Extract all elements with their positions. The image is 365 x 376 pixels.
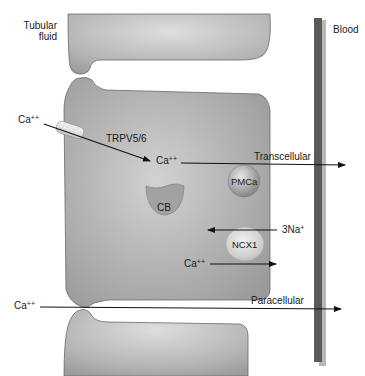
sodium-label: 3Na+ [282, 224, 304, 235]
ca-paracellular-label: Ca++ [14, 300, 35, 311]
ca-ncx-symbol: Ca [184, 258, 197, 269]
ca-lumen-label: Ca++ [18, 114, 39, 125]
paracellular-label: Paracellular [251, 295, 304, 306]
calcium-transport-diagram [0, 0, 365, 376]
trpv-label: TRPV5/6 [106, 133, 147, 144]
ca-lumen-symbol: Ca [18, 114, 31, 125]
upper-cell [68, 14, 270, 74]
ca-ncx-charge: ++ [197, 258, 205, 265]
sodium-symbol: 3Na [282, 224, 300, 235]
cb-label: CB [157, 202, 171, 213]
basolateral-membrane [314, 18, 326, 366]
ca-para-charge: ++ [27, 300, 35, 307]
ca-para-symbol: Ca [14, 300, 27, 311]
ca-cell-charge: ++ [169, 155, 177, 162]
ca-lumen-charge: ++ [31, 114, 39, 121]
pmca-label: PMCa [231, 176, 257, 187]
transcellular-label: Transcellular [254, 151, 311, 162]
ncx1-label: NCX1 [232, 239, 257, 250]
sodium-charge: + [300, 224, 304, 231]
ca-cell-label: Ca++ [156, 155, 177, 166]
tubular-fluid-label: Tubular fluid [20, 20, 57, 42]
blood-label: Blood [333, 24, 359, 35]
tubular-fluid-line1: Tubular [20, 20, 57, 31]
ca-cell-symbol: Ca [156, 155, 169, 166]
tubular-fluid-line2: fluid [20, 31, 57, 42]
ca-ncx-label: Ca++ [184, 258, 205, 269]
lower-cell [64, 310, 248, 376]
